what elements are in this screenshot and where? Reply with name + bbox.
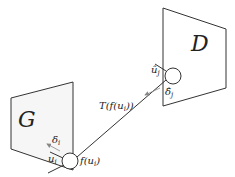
label-uhat-j: ûj: [151, 64, 160, 77]
label-d: D: [190, 31, 209, 56]
node-i-tail: [48, 165, 64, 173]
label-g: G: [18, 107, 36, 132]
label-f-u-i: f(ui): [79, 155, 100, 168]
node-i: [62, 153, 78, 169]
diagram-canvas: G D δi ui f(ui) T(f(ui)) ûj δ̂j: [0, 0, 235, 177]
node-j: [165, 68, 181, 84]
label-transfer: T(f(ui)): [99, 100, 134, 113]
deltahat-j-arrow: [145, 88, 160, 95]
